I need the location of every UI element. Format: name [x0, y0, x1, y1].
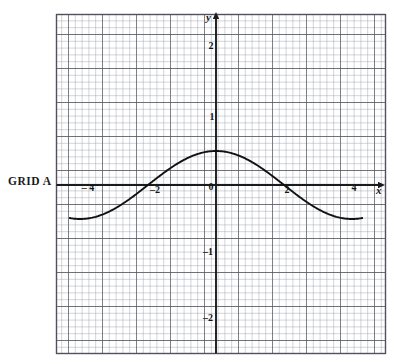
y-tick-label-2: 2: [205, 40, 217, 51]
y-axis-name: y: [206, 11, 211, 23]
coordinate-grid-plot: [0, 0, 398, 364]
y-tick-label--2: –2: [199, 312, 217, 323]
grid-background: [57, 15, 386, 354]
y-tick-label--1: –1: [199, 246, 217, 257]
x-tick-label-2: 2: [281, 184, 293, 195]
x-tick-label--4: – 4: [77, 182, 99, 193]
x-axis-name: x: [376, 184, 382, 196]
y-tick-label-1: 1: [206, 111, 218, 122]
origin-label: 0: [205, 181, 217, 192]
graph-figure: GRID A – 4: [0, 0, 398, 364]
x-tick-label--2: –2: [146, 184, 164, 195]
grid-a-caption: GRID A: [8, 175, 52, 187]
x-tick-label-4: 4: [348, 182, 360, 193]
